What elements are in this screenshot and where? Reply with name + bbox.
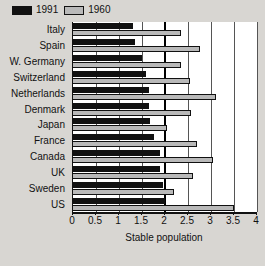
bar-1991-sweden	[73, 182, 163, 188]
bar-1991-switzerland	[73, 71, 146, 77]
bar-1991-italy	[73, 23, 133, 29]
x-tick-label: 0	[69, 215, 75, 226]
x-tick-label: 3.5	[226, 215, 240, 226]
x-tick-label: 2	[161, 215, 167, 226]
bar-chart: 19911960 ItalySpainW. GermanySwitzerland…	[0, 0, 265, 266]
bar-row	[73, 149, 257, 165]
category-label-spain: Spain	[0, 38, 68, 54]
x-tick-label: 2.5	[180, 215, 194, 226]
bar-1960-spain	[73, 46, 200, 52]
category-label-switzerland: Switzerland	[0, 69, 68, 85]
bar-1960-uk	[73, 173, 193, 179]
gridline-4	[257, 22, 258, 212]
bar-row	[73, 38, 257, 54]
bar-row	[73, 196, 257, 212]
x-tick-label: 0.5	[88, 215, 102, 226]
bar-1991-w-germany	[73, 55, 142, 61]
category-label-sweden: Sweden	[0, 180, 68, 196]
bar-row	[73, 22, 257, 38]
bar-1991-us	[73, 198, 165, 204]
bar-1991-japan	[73, 118, 150, 124]
category-label-france: France	[0, 133, 68, 149]
category-label-us: US	[0, 196, 68, 212]
x-axis-title: Stable population	[72, 232, 256, 243]
x-tick-label: 3	[207, 215, 213, 226]
bar-1991-spain	[73, 39, 135, 45]
bar-rows	[73, 22, 257, 212]
bar-1960-netherlands	[73, 94, 216, 100]
bar-1960-italy	[73, 30, 181, 36]
bar-1960-japan	[73, 125, 167, 131]
bar-row	[73, 54, 257, 70]
bar-1991-canada	[73, 150, 160, 156]
bar-row	[73, 101, 257, 117]
legend-entry: 1960	[64, 5, 110, 15]
legend-label: 1960	[88, 5, 110, 15]
bar-1991-france	[73, 134, 154, 140]
category-axis-labels: ItalySpainW. GermanySwitzerlandNetherlan…	[0, 22, 68, 212]
bar-row	[73, 133, 257, 149]
bar-1960-sweden	[73, 189, 174, 195]
legend-label: 1991	[36, 5, 58, 15]
x-tick-label: 1	[115, 215, 121, 226]
bar-row	[73, 69, 257, 85]
category-label-denmark: Denmark	[0, 101, 68, 117]
x-tick-label: 4	[253, 215, 259, 226]
category-label-uk: UK	[0, 164, 68, 180]
bar-row	[73, 117, 257, 133]
legend-swatch-1960	[64, 6, 84, 15]
category-label-w-germany: W. Germany	[0, 54, 68, 70]
x-tick-label: 1.5	[134, 215, 148, 226]
bar-1960-w-germany	[73, 62, 181, 68]
category-label-japan: Japan	[0, 117, 68, 133]
plot-area	[72, 22, 257, 212]
bar-1991-uk	[73, 166, 160, 172]
bar-1960-switzerland	[73, 78, 190, 84]
bar-1960-canada	[73, 157, 213, 163]
bar-1960-us	[73, 205, 234, 211]
x-axis: 00.511.522.533.54	[72, 212, 256, 228]
legend-swatch-1991	[12, 6, 32, 15]
bar-row	[73, 180, 257, 196]
bar-row	[73, 85, 257, 101]
bar-1991-denmark	[73, 103, 149, 109]
bar-row	[73, 164, 257, 180]
bar-1960-france	[73, 141, 197, 147]
category-label-italy: Italy	[0, 22, 68, 38]
legend-entry: 1991	[12, 5, 58, 15]
bar-1960-denmark	[73, 110, 191, 116]
category-label-netherlands: Netherlands	[0, 85, 68, 101]
chart-legend: 19911960	[12, 2, 111, 18]
bar-1991-netherlands	[73, 87, 149, 93]
category-label-canada: Canada	[0, 149, 68, 165]
